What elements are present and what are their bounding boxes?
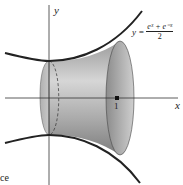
catenary-equation: y = eˣ + e⁻ˣ 2 — [132, 22, 173, 41]
equation-denominator: 2 — [158, 32, 162, 41]
equation-numerator: eˣ + e⁻ˣ — [146, 22, 173, 32]
text-fragment: ce — [0, 172, 9, 183]
y-axis-label: y — [54, 4, 59, 16]
point-x-1 — [115, 96, 119, 100]
x-axis-label: x — [175, 99, 180, 111]
equation-lhs: y = — [132, 27, 144, 37]
equation-fraction: eˣ + e⁻ˣ 2 — [146, 22, 173, 41]
tick-label-1: 1 — [114, 101, 119, 111]
